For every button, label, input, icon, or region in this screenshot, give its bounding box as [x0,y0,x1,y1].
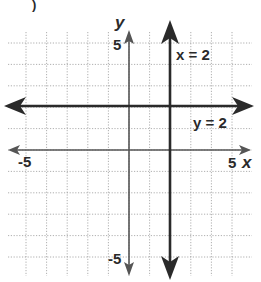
y-axis-label: y [114,13,126,32]
x-max-tick-label: 5 [228,154,236,171]
axes [8,30,251,276]
grid [8,32,252,276]
line-x-label: x = 2 [176,46,210,63]
labels: ) y 5 -5 -5 5 x x = 2 y = 2 [18,0,253,267]
coordinate-graph: ) y 5 -5 -5 5 x x = 2 y = 2 [0,0,261,282]
x-min-tick-label: -5 [18,153,31,170]
corner-label: ) [32,0,36,12]
y-min-tick-label: -5 [108,250,121,267]
y-max-tick-label: 5 [113,36,121,53]
line-y-label: y = 2 [193,114,227,131]
x-axis-label: x [241,153,253,172]
